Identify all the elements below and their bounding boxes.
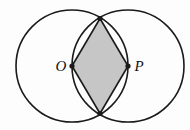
label-p: P <box>133 58 143 74</box>
geometry-figure-svg: O P <box>0 0 190 130</box>
label-o: O <box>56 58 67 74</box>
point-top-intersection-marker <box>97 16 102 21</box>
geometry-figure-container: O P <box>0 0 190 130</box>
point-bottom-intersection-marker <box>97 111 102 116</box>
point-p-marker <box>125 63 130 68</box>
point-o-marker <box>69 63 74 68</box>
